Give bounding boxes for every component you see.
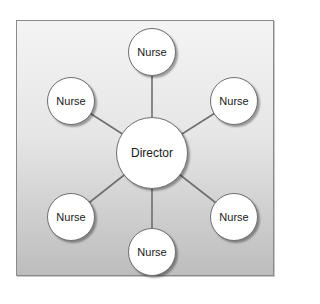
director-node: Director <box>116 117 188 189</box>
director-label: Director <box>131 146 173 160</box>
nurse-label: Nurse <box>137 246 166 258</box>
nurse-node-upper-left: Nurse <box>47 77 95 125</box>
nurse-label: Nurse <box>56 211 85 223</box>
nurse-label: Nurse <box>219 95 248 107</box>
nurse-node-upper-right: Nurse <box>210 77 258 125</box>
nurse-node-lower-right: Nurse <box>210 193 258 241</box>
nurse-node-top: Nurse <box>128 28 176 76</box>
nurse-label: Nurse <box>56 95 85 107</box>
nurse-node-bottom: Nurse <box>128 228 176 276</box>
nurse-label: Nurse <box>137 46 166 58</box>
nurse-node-lower-left: Nurse <box>47 193 95 241</box>
nurse-label: Nurse <box>219 211 248 223</box>
